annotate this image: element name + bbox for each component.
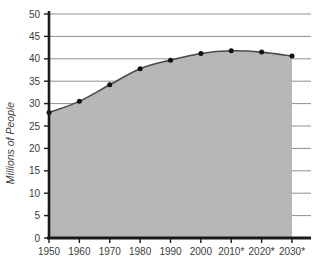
data-point-2020	[259, 50, 264, 55]
y-tick-label-15: 15	[29, 165, 41, 176]
data-point-1980	[138, 66, 143, 71]
y-tick-label-25: 25	[29, 121, 41, 132]
data-point-1990	[168, 58, 173, 63]
y-tick-label-35: 35	[29, 76, 41, 87]
y-tick-label-40: 40	[29, 53, 41, 64]
data-point-1970	[107, 82, 112, 87]
x-tick-label-2020: 2020*	[249, 246, 275, 257]
x-tick-label-1980: 1980	[129, 246, 152, 257]
y-tick-label-10: 10	[29, 188, 41, 199]
y-tick-label-45: 45	[29, 31, 41, 42]
y-tick-label-0: 0	[34, 233, 40, 244]
data-point-2000	[198, 51, 203, 56]
y-tick-label-20: 20	[29, 143, 41, 154]
y-tick-label-5: 5	[34, 210, 40, 221]
x-tick-label-1990: 1990	[159, 246, 182, 257]
x-tick-label-1960: 1960	[68, 246, 91, 257]
x-tick-label-2030: 2030*	[279, 246, 305, 257]
x-axis-tick-labels: 1950196019701980199020002010*2020*2030*	[38, 246, 305, 257]
data-point-1960	[77, 99, 82, 104]
x-tick-label-1950: 1950	[38, 246, 61, 257]
x-tick-label-2000: 2000	[190, 246, 213, 257]
population-area-chart: 05101520253035404550 1950196019701980199…	[0, 0, 315, 271]
x-tick-label-2010: 2010*	[218, 246, 244, 257]
chart-container: 05101520253035404550 1950196019701980199…	[0, 0, 315, 271]
y-tick-label-30: 30	[29, 98, 41, 109]
y-tick-label-50: 50	[29, 9, 41, 20]
data-point-2010	[229, 48, 234, 53]
x-tick-label-1970: 1970	[99, 246, 122, 257]
data-point-2030	[290, 54, 295, 59]
y-axis-title: Millions of People	[4, 102, 16, 184]
